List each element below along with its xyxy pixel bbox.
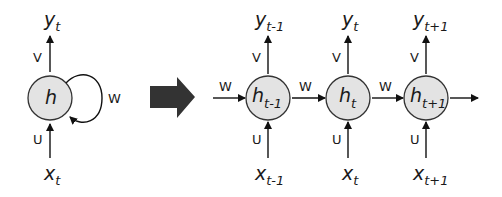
step-w-label: W [379,79,392,94]
step-input-label: xt-1 [254,162,284,188]
incoming-w-label: W [219,79,232,94]
unfolded-step: yt+1 V ht+1 U xt+1 [404,8,478,188]
folded-rnn: yt V h W U xt [28,8,121,188]
step-output-label: yt [341,8,359,34]
unfolded-rnn: W yt-1 V ht-1 U xt-1 W yt [213,8,478,188]
step-v-label: V [410,50,419,65]
step-output-label: yt+1 [412,8,449,34]
right-arrow-icon [150,77,195,118]
step-w-label: W [299,79,312,94]
step-output-label: yt-1 [254,8,284,34]
step-u-label: U [332,132,342,147]
folded-v-label: V [33,50,42,65]
step-u-label: U [410,132,420,147]
unfolded-step: yt V ht U xt W [326,8,403,188]
step-input-label: xt [341,162,359,188]
step-v-label: V [332,50,341,65]
step-v-label: V [252,50,261,65]
folded-w-label: W [108,91,121,106]
rnn-unfolding-diagram: yt V h W U xt W yt-1 V [0,0,502,197]
folded-input-label: xt [43,162,61,188]
folded-node-label: h [45,86,57,108]
step-input-label: xt+1 [412,162,449,188]
step-u-label: U [252,132,262,147]
folded-output-label: yt [43,8,61,34]
folded-u-label: U [33,132,43,147]
unfolded-step: yt-1 V ht-1 U xt-1 W [246,8,325,188]
